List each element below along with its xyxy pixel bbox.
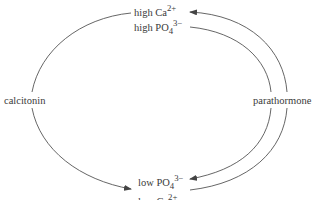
right-outer-arc-upper <box>190 12 287 92</box>
low-phosphate-label: low PO43− <box>138 173 184 192</box>
right-inner-arc-lower <box>190 108 271 179</box>
low-levels-node: low PO43− low Ca2+ <box>138 173 184 200</box>
calcium-regulation-diagram: high Ca2+ high PO43− low PO43− low Ca2+ … <box>0 0 326 200</box>
high-calcium-label: high Ca2+ <box>134 3 182 18</box>
right-outer-arc-lower <box>190 108 287 190</box>
high-levels-node: high Ca2+ high PO43− <box>134 3 182 36</box>
calcitonin-label: calcitonin <box>4 95 45 106</box>
parathormone-label: parathormone <box>253 95 311 106</box>
left-arc-lower <box>32 108 131 189</box>
low-calcium-label: low Ca2+ <box>138 192 184 200</box>
high-phosphate-label: high PO43− <box>134 18 182 37</box>
left-arc-upper <box>32 13 131 92</box>
